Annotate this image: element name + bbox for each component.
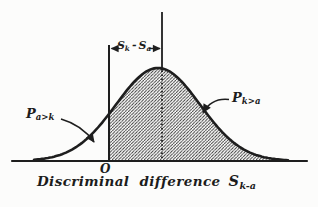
discriminal-difference-figure: Sk-Sa Pa>k Pk>a O Discriminal difference… (0, 0, 318, 207)
gap-label: Sk-Sa (117, 40, 151, 52)
right-probability-arrow-icon (203, 99, 229, 112)
left-probability-sub: a>k (36, 112, 55, 122)
hatched-probability-area (109, 68, 289, 161)
axis-title-text: Discriminal difference (37, 173, 221, 189)
gap-label-s2-sub: a (146, 44, 151, 53)
right-probability-label: Pk>a (232, 91, 260, 106)
axis-title-symbol-main: S (229, 172, 240, 189)
gap-label-s2: S (138, 39, 146, 52)
right-probability-sub: k>a (242, 96, 261, 106)
axis-title-symbol-sub: k-a (239, 180, 255, 191)
right-probability-main: P (232, 90, 242, 105)
left-probability-main: P (26, 106, 36, 121)
axis-title-symbol: Sk-a (229, 172, 256, 189)
gap-label-minus: - (130, 39, 139, 52)
axis-title: Discriminal differenceSk-a (37, 174, 256, 190)
left-probability-label: Pa>k (26, 107, 54, 122)
gap-label-s1: S (117, 39, 125, 52)
